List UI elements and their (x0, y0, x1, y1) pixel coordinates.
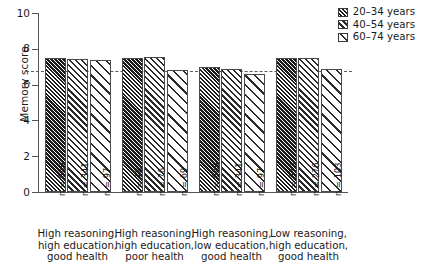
legend-label: 60–74 years (353, 32, 415, 42)
sample-size-label: n = 669 (58, 152, 66, 196)
sample-size-label: n = 97 (103, 152, 111, 196)
sample-size-label: n = 341 (235, 152, 243, 196)
legend-item: 20–34 years (338, 7, 415, 17)
sample-size-label: n = 103 (334, 152, 342, 196)
legend: 20–34 years40–54 years60–74 years (338, 7, 415, 42)
y-axis-tick-mark (32, 85, 38, 86)
y-axis-tick-label: 4 (8, 115, 30, 126)
sample-size-label: n = 69 (180, 152, 188, 196)
y-axis-tick-label: 10 (8, 8, 30, 19)
sample-size-label: n = 276 (312, 152, 320, 196)
legend-label: 40–54 years (353, 20, 415, 30)
category-label-line: good health (262, 251, 355, 263)
legend-swatch-icon (338, 8, 348, 17)
y-axis-tick-label: 0 (8, 187, 30, 198)
category-label-line: high education, (262, 240, 355, 252)
y-axis-tick-label: 8 (8, 43, 30, 54)
sample-size-label: n = 341 (81, 152, 89, 196)
sample-size-label: n = 76 (158, 152, 166, 196)
y-axis-tick-labels: 1086420 (0, 0, 30, 200)
sample-size-label: n = 573 (289, 152, 297, 196)
y-axis-tick-mark (32, 120, 38, 121)
legend-swatch-icon (338, 33, 348, 42)
category-label-line: Low reasoning, (262, 228, 355, 240)
y-axis-tick-mark (32, 156, 38, 157)
legend-label: 20–34 years (353, 7, 415, 17)
bar-group (45, 13, 111, 192)
legend-swatch-icon (338, 20, 348, 29)
y-axis-tick-label: 2 (8, 151, 30, 162)
memory-score-bar-chart: Memory score 1086420 n = 669n = 341n = 9… (0, 0, 421, 271)
sample-size-label: n = 97 (257, 152, 265, 196)
y-axis-tick-mark (32, 13, 38, 14)
bar-group (199, 13, 265, 192)
sample-size-label: n = 78 (135, 152, 143, 196)
sample-size-label: n = 669 (212, 152, 220, 196)
legend-item: 60–74 years (338, 32, 415, 42)
bar-group (276, 13, 342, 192)
y-axis-tick-label: 6 (8, 79, 30, 90)
legend-item: 40–54 years (338, 20, 415, 30)
bar-group (122, 13, 188, 192)
x-axis-category-label: Low reasoning,high education,good health (262, 228, 355, 263)
y-axis-tick-mark (32, 49, 38, 50)
